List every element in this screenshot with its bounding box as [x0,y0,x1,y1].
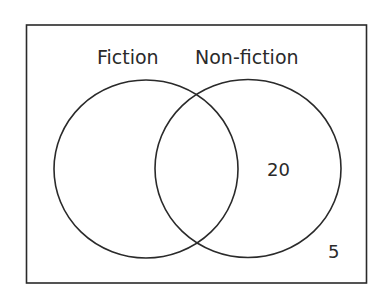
fiction-circle [54,80,238,258]
fiction-label: Fiction [97,46,159,68]
outside-value: 5 [328,241,339,262]
non-fiction-label: Non-fiction [195,46,299,68]
non-fiction-only-value: 20 [267,159,290,180]
venn-diagram: Fiction Non-fiction 20 5 [0,0,381,299]
non-fiction-circle [155,80,341,258]
